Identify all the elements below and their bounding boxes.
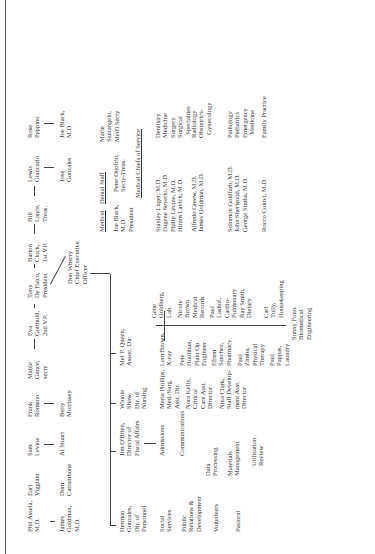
connector <box>50 256 66 285</box>
connector <box>44 167 54 168</box>
board-member-sam-levine: Sam Levine <box>26 438 41 456</box>
label-dental-staff: Dental Staff <box>98 172 105 204</box>
assoc-nicole-brown: Nicole Brown Medical Records <box>176 296 206 318</box>
board-member-rose-peppino: Rose Peppino <box>26 116 41 138</box>
medical-chiefs-title: Medical Chiefs of Service <box>134 129 141 198</box>
director-winnie-shaw: Winnie Shaw, Dir. of Nursing <box>118 388 148 409</box>
assoc-paul-pappas: Paul Pappas, Laundry <box>268 344 290 366</box>
director-jim-obrien: Jim O'Brien, Director of Fiscal Affairs <box>118 420 140 456</box>
assoc-carl-tully: Carl Tully, Housekeeping <box>262 280 284 318</box>
dept-utilization-review: Utilization Review <box>250 438 265 466</box>
services-group-4: Family Practice <box>260 96 267 138</box>
medical-secty-marie-santangelo: Marie Santangelo, Med'l Secty <box>98 111 120 142</box>
connector <box>44 403 54 404</box>
dept-social-services: Social Services <box>158 510 173 532</box>
assoc-paul-zimba: Paul Zimba, Physical Therapy <box>236 344 266 366</box>
assoc-lem-brown: Lem Brown, X-ray <box>158 333 173 366</box>
ceo-don-wherry: Don Wherry Chief Executive Officer <box>66 241 88 284</box>
dept-volunteers: Volunteers <box>212 504 219 532</box>
dept-data-processing: Data Processing <box>204 447 219 476</box>
board-member-james-goldman: James Goldman, M.D. <box>58 506 80 532</box>
chiefs-group-4: Rocco Colovi, M.D. <box>260 178 267 232</box>
dept-communications: Communications <box>178 411 185 456</box>
board-member-joe-black: Joe Black, M.D. <box>58 111 73 138</box>
services-group-1: Dentistry Medicine Surgery Surgical Spec… <box>154 106 191 138</box>
board-member-frank-romano: Frank Romano <box>26 395 41 417</box>
medical-secty-treas-peter-onofrio: Peter Onofrio, Secty-Treas. <box>112 154 127 192</box>
connector <box>110 353 116 354</box>
connector <box>144 443 156 444</box>
board-member-earl-viggiani: Earl Viggiani <box>26 473 41 496</box>
board-member-dom-catrambone: Dom Catrambone <box>58 464 73 496</box>
director-herman-gonzales: Herman Gonzales, Dir. of Personnel <box>118 506 148 532</box>
assoc-pete-hoolihan: Pete Hoolihan, Plant Op. Engineer <box>178 340 208 366</box>
services-group-2: Radiology Obstetrics- Gynecology <box>190 102 212 138</box>
assoc-ray-smith: Ray Smith, Dietary <box>238 288 253 318</box>
connector <box>110 451 116 452</box>
connector <box>110 403 116 404</box>
board-member-jose-gonzales: Jose Gonzales <box>58 157 73 182</box>
connector <box>44 123 54 124</box>
board-member-bill-lance: Bill Lance, Treas. <box>26 204 48 222</box>
medical-president-joe-black: Joe Black, M.D. President <box>112 205 134 232</box>
connector <box>34 264 35 268</box>
board-member-phil-assela: Phil Assela, M.D. <box>26 501 41 532</box>
assoc-paul-lashof: Paul Lashof, Cardio- Pulmonary <box>208 289 238 318</box>
chiefs-group-1: Stanley Luger, M.D. Eugene Severio, M.D.… <box>154 173 184 232</box>
services-group-3: Pathology Pediatrics Emergency Medicine <box>226 108 256 138</box>
assoc-efrem-sanchez: Efrem Sanchez, Pharmacy <box>210 340 232 366</box>
board-member-al-stuart: Al Stuart <box>58 432 65 456</box>
connector <box>34 304 35 308</box>
board-member-lewis-giancarlo: Lewis Giancarlo <box>26 156 41 182</box>
nursing-nina-clark: Nina Clark, Staff Develop- ment Asst. Di… <box>218 370 248 409</box>
nursing-maria-phillips: Maria Phillips, Med./Surg. Asst. Dir. <box>158 370 180 409</box>
connector <box>34 224 35 234</box>
chiefs-group-2: Alfredo Greew, M.D. James Goldman, M.D. <box>190 172 205 232</box>
dept-public-relations: Public Relations & Development <box>180 496 202 532</box>
assoc-branch-line <box>156 325 286 326</box>
org-chart: Phil Assela, M.D. Earl Viggiani Sam Levi… <box>0 0 375 554</box>
board-member-mable-gance: Mable Gance, secty <box>26 361 48 380</box>
dept-materials-management: Materials Management <box>226 442 241 476</box>
board-member-eva-gotthuld: Eva Gotthuld, 2nd V.P. <box>26 311 48 336</box>
connector <box>110 525 116 526</box>
connector <box>90 273 110 274</box>
board-member-tony-de-falco: Tony De Falco, President <box>26 272 48 298</box>
connector <box>44 444 54 445</box>
board-member-betty-morrissey: Betty Morrissey <box>58 390 73 417</box>
assoc-sunny-fono: Sunny Fono, Biomedical Engineering <box>290 306 312 340</box>
connector <box>34 339 35 349</box>
dept-pastoral: Pastoral <box>234 511 241 532</box>
assoc-gene-goldberg: Gene Goldberg, Lab. <box>150 292 172 318</box>
directors-bar <box>110 274 111 526</box>
connector <box>34 186 35 196</box>
director-mel-queen: Mel P. Queen, Assoc. Dir. <box>118 329 133 366</box>
chiefs-group-3: Solomon Goldfarb, M.D. John Sherwood, M.… <box>226 166 248 233</box>
dept-admissions: Admissions <box>158 425 165 456</box>
nursing-nora-kelly: Nora Kelly, Critical Care Asst. Director <box>184 378 214 409</box>
connector <box>50 521 55 522</box>
label-medical: Medical <box>98 210 105 232</box>
page: Phil Assela, M.D. Earl Viggiani Sam Levi… <box>0 0 375 554</box>
board-member-barton-clock: Barton Clock, 1st V.P. <box>26 243 48 262</box>
